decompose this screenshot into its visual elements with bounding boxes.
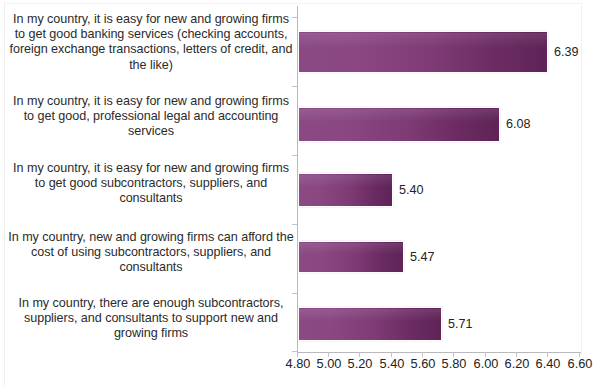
bar-value-label: 5.71 bbox=[448, 317, 473, 331]
bar-highlight bbox=[299, 33, 547, 48]
category-axis-labels: In my country, it is easy for new and gr… bbox=[8, 6, 294, 352]
x-axis-tick-label: 5.00 bbox=[317, 356, 342, 372]
y-axis-tick bbox=[292, 17, 297, 18]
x-axis-tick-label: 6.20 bbox=[505, 356, 530, 372]
bar-series-2 bbox=[298, 173, 393, 207]
plot-area: 6.39 6.08 5.40 5.47 5.71 bbox=[297, 6, 581, 352]
x-axis-tick-label: 5.60 bbox=[411, 356, 436, 372]
category-label: In my country, it is easy for new and gr… bbox=[8, 94, 294, 140]
y-axis-tick bbox=[292, 224, 297, 225]
x-axis-tick-label: 5.20 bbox=[348, 356, 373, 372]
x-axis-tick-label: 6.60 bbox=[568, 356, 593, 372]
y-axis-tick bbox=[292, 86, 297, 87]
y-axis-tick bbox=[292, 293, 297, 294]
x-axis-tick-label: 5.80 bbox=[442, 356, 467, 372]
bar-highlight bbox=[299, 243, 403, 254]
bar-series-1 bbox=[298, 107, 500, 142]
chart-frame-left-edge bbox=[4, 2, 5, 386]
bar-value-label: 6.39 bbox=[554, 45, 579, 59]
x-axis-tick-label: 5.40 bbox=[380, 356, 405, 372]
x-axis-tick-label: 4.80 bbox=[286, 356, 311, 372]
x-axis-tick-label: 6.40 bbox=[536, 356, 561, 372]
bar-value-label: 5.40 bbox=[399, 183, 424, 197]
x-axis-line bbox=[297, 352, 581, 353]
bar-highlight bbox=[299, 309, 441, 321]
category-label: In my country, there are enough subcontr… bbox=[8, 296, 294, 342]
x-axis-tick-label: 6.00 bbox=[474, 356, 499, 372]
bar-value-label: 5.47 bbox=[410, 250, 435, 264]
bar-highlight bbox=[299, 175, 392, 187]
category-label: In my country, it is easy for new and gr… bbox=[8, 12, 294, 73]
bar-series-0 bbox=[298, 31, 548, 73]
category-label: In my country, it is easy for new and gr… bbox=[8, 161, 294, 207]
chart-frame-top-edge bbox=[5, 3, 581, 4]
bar-series-3 bbox=[298, 241, 404, 273]
bar-highlight bbox=[299, 109, 499, 122]
chart-frame-right-edge bbox=[581, 2, 582, 354]
bar-series-4 bbox=[298, 307, 442, 341]
x-axis-tick-labels: 4.80 5.00 5.20 5.40 5.60 5.80 6.00 6.20 … bbox=[297, 356, 587, 378]
category-label: In my country, new and growing firms can… bbox=[8, 230, 294, 276]
y-axis-tick bbox=[292, 155, 297, 156]
bar-value-label: 6.08 bbox=[506, 117, 531, 131]
bar-chart: In my country, it is easy for new and gr… bbox=[0, 0, 604, 388]
